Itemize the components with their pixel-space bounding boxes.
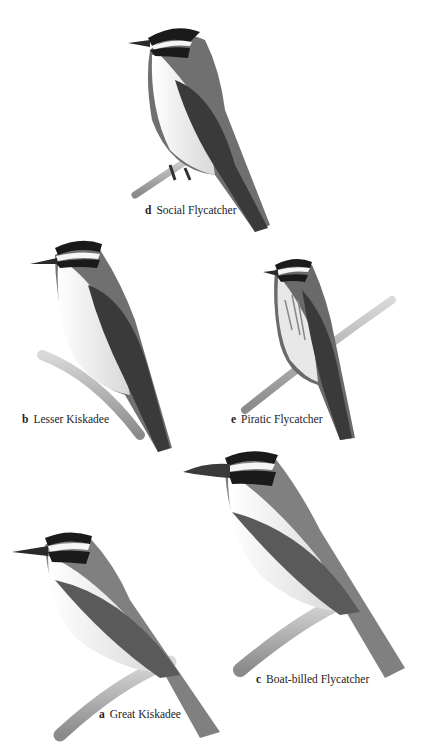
bird-label-b: bLesser Kiskadee xyxy=(22,413,109,425)
bird-label-letter: b xyxy=(22,413,28,425)
bird-label-letter: c xyxy=(256,673,261,685)
bird-label-name: Piratic Flycatcher xyxy=(241,413,322,425)
bird-label-a: aGreat Kiskadee xyxy=(99,708,181,720)
bird-label-name: Lesser Kiskadee xyxy=(33,413,109,425)
bird-label-letter: d xyxy=(145,204,151,216)
bird-label-letter: a xyxy=(99,708,105,720)
boat-billed-flycatcher-illustration xyxy=(183,451,405,678)
bird-label-name: Social Flycatcher xyxy=(156,204,236,216)
social-flycatcher-illustration xyxy=(128,28,270,232)
bird-label-c: cBoat-billed Flycatcher xyxy=(256,673,369,685)
bird-label-d: dSocial Flycatcher xyxy=(145,204,237,216)
bird-label-letter: e xyxy=(231,413,236,425)
bird-label-name: Great Kiskadee xyxy=(110,708,181,720)
bird-label-e: ePiratic Flycatcher xyxy=(231,413,323,425)
bird-label-name: Boat-billed Flycatcher xyxy=(266,673,369,685)
bird-plate-illustration xyxy=(0,0,421,748)
